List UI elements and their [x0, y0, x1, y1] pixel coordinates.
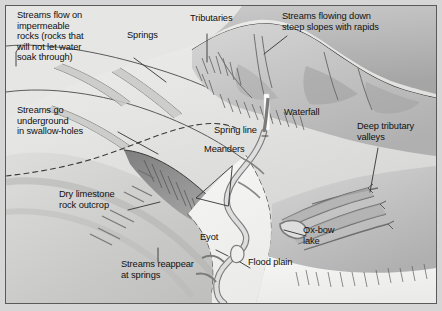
eyot-island: [231, 245, 244, 262]
label-streams-reappear: Streams reappear at springs: [121, 259, 194, 280]
label-tributaries: Tributaries: [190, 13, 232, 24]
label-deep-tributary: Deep tributary valleys: [357, 121, 414, 142]
label-flood-plain: Flood plain: [248, 257, 292, 268]
label-dry-limestone: Dry limestone rock outcrop: [59, 189, 115, 210]
label-impermeable-rocks: Streams flow on impermeable rocks (rocks…: [17, 10, 84, 63]
label-eyot: Eyot: [200, 232, 218, 243]
label-meanders: Meanders: [204, 144, 245, 155]
diagram-stage: Streams flow on impermeable rocks (rocks…: [0, 0, 442, 311]
label-ox-bow-lake: Ox-bow lake: [303, 225, 334, 246]
label-waterfall: Waterfall: [284, 107, 319, 118]
diagram-frame: Streams flow on impermeable rocks (rocks…: [5, 5, 437, 304]
label-steep-slopes-rapids: Streams flowing down steep slopes with r…: [282, 11, 379, 32]
label-swallow-holes: Streams go underground in swallow-holes: [17, 105, 83, 137]
label-spring-line: Spring line: [214, 125, 257, 136]
label-springs: Springs: [127, 30, 158, 41]
